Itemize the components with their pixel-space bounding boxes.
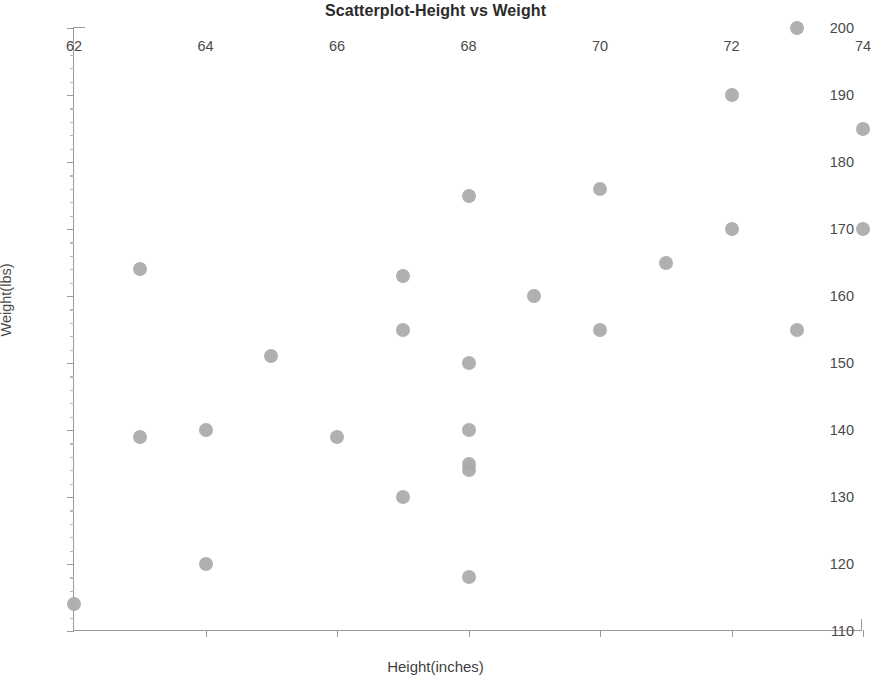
y-tick-mark — [67, 28, 74, 29]
data-point — [856, 222, 870, 236]
y-tick-mark — [67, 564, 74, 565]
data-point — [396, 323, 410, 337]
data-point — [133, 430, 147, 444]
y-tick-mark — [67, 497, 74, 498]
data-point — [330, 430, 344, 444]
data-point — [725, 222, 739, 236]
data-point — [462, 463, 476, 477]
data-point — [462, 356, 476, 370]
x-tick-mark — [469, 630, 470, 637]
x-tick-mark — [600, 630, 601, 637]
y-tick-mark — [67, 363, 74, 364]
data-point — [790, 21, 804, 35]
data-point — [593, 323, 607, 337]
data-point — [264, 349, 278, 363]
y-tick-mark — [67, 631, 74, 632]
data-point — [527, 289, 541, 303]
data-point — [856, 122, 870, 136]
x-axis-title: Height(inches) — [0, 658, 871, 675]
plot-area: 110120130140150160170180190200 626466687… — [73, 28, 862, 631]
x-tick-mark — [863, 630, 864, 637]
data-point — [199, 423, 213, 437]
x-tick-mark — [206, 630, 207, 637]
data-point — [396, 490, 410, 504]
data-point — [462, 570, 476, 584]
scatter-chart-figure: Scatterplot-Height vs Weight 11012013014… — [0, 0, 871, 680]
x-tick-mark — [337, 630, 338, 637]
y-axis-title: Weight(lbs) — [0, 263, 14, 336]
y-tick-mark — [67, 430, 74, 431]
data-point — [462, 423, 476, 437]
data-point — [199, 557, 213, 571]
data-point — [462, 189, 476, 203]
data-points-layer — [74, 28, 862, 630]
data-point — [659, 256, 673, 270]
data-point — [396, 269, 410, 283]
data-point — [725, 88, 739, 102]
x-tick-mark — [732, 630, 733, 637]
data-point — [133, 262, 147, 276]
y-tick-mark — [67, 162, 74, 163]
chart-title: Scatterplot-Height vs Weight — [0, 2, 871, 20]
data-point — [67, 597, 81, 611]
y-tick-mark — [67, 95, 74, 96]
data-point — [593, 182, 607, 196]
y-tick-mark — [67, 229, 74, 230]
data-point — [790, 323, 804, 337]
y-tick-mark — [67, 296, 74, 297]
